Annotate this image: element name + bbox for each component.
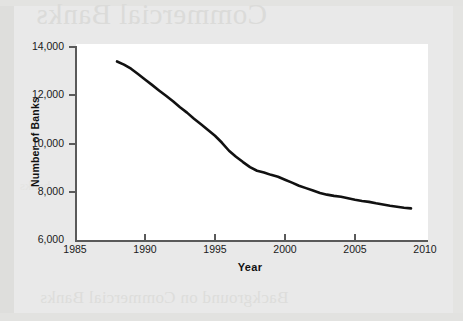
x-tick-label: 1995 bbox=[185, 243, 245, 255]
x-axis-title: Year bbox=[190, 261, 310, 273]
y-tick-mark bbox=[69, 143, 76, 145]
x-tick-label: 2000 bbox=[255, 243, 315, 255]
x-tick-mark bbox=[214, 234, 216, 241]
y-tick-mark bbox=[69, 191, 76, 193]
x-tick-label: 2005 bbox=[325, 243, 385, 255]
x-tick-mark bbox=[284, 234, 286, 241]
plot-area bbox=[76, 44, 428, 240]
y-tick-mark bbox=[69, 94, 76, 96]
y-axis-title: Number of Banks bbox=[29, 87, 41, 197]
y-tick-mark bbox=[69, 46, 76, 48]
figure-page: Commercial Banks Background on Commercia… bbox=[0, 0, 463, 321]
y-tick-label: 8,000 bbox=[38, 185, 64, 197]
page-tone-right-strip bbox=[453, 0, 463, 321]
x-tick-mark bbox=[144, 234, 146, 241]
page-tone-top-strip bbox=[0, 0, 463, 6]
x-tick-label: 2010 bbox=[395, 243, 455, 255]
x-axis-line bbox=[75, 240, 428, 242]
y-tick-label-wrap: 14,000 bbox=[0, 40, 64, 54]
x-tick-mark bbox=[354, 234, 356, 241]
x-tick-label: 1985 bbox=[45, 243, 105, 255]
y-tick-label: 14,000 bbox=[32, 40, 64, 52]
x-tick-label: 1990 bbox=[115, 243, 175, 255]
page-tone-bottom-strip bbox=[0, 313, 463, 321]
bleedthrough-subtitle-text: Background on Commercial Banks bbox=[40, 288, 288, 308]
